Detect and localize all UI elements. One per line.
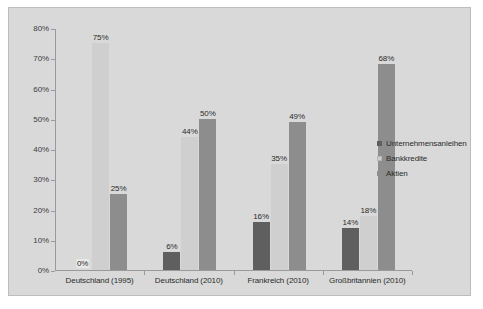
x-axis-category-label: Deutschland (1995) xyxy=(55,276,144,286)
bar-value-label: 35% xyxy=(271,154,287,163)
x-axis: Deutschland (1995)Deutschland (2010)Fran… xyxy=(55,274,412,294)
bar-value-label: 75% xyxy=(93,33,109,42)
x-axis-category-label: Großbritannien (2010) xyxy=(323,276,412,286)
bar-group: 6%44%50% xyxy=(145,29,234,270)
chart-frame: 0%10%20%30%40%50%60%70%80% 0%75%25%6%44%… xyxy=(8,7,471,296)
bar-value-label: 0% xyxy=(76,259,89,268)
y-axis-tick-label: 20% xyxy=(9,206,49,216)
x-axis-tick-mark xyxy=(412,271,413,275)
y-axis-tick-label: 10% xyxy=(9,236,49,246)
legend-item-label: Aktien xyxy=(386,169,408,178)
y-axis-tick-mark xyxy=(51,29,55,30)
y-axis-tick-mark xyxy=(51,90,55,91)
legend-swatch-icon xyxy=(377,141,382,146)
y-axis-tick-label: 30% xyxy=(9,175,49,185)
x-axis-tick-mark xyxy=(234,271,235,275)
bar[interactable]: 50% xyxy=(199,119,216,270)
bar-value-label: 18% xyxy=(361,206,377,215)
y-axis: 0%10%20%30%40%50%60%70%80% xyxy=(9,22,55,272)
bar[interactable]: 75% xyxy=(92,43,109,270)
bar[interactable]: 35% xyxy=(271,164,288,270)
bar-value-label: 25% xyxy=(111,184,127,193)
y-axis-tick-mark xyxy=(51,180,55,181)
bar-value-label: 44% xyxy=(182,127,198,136)
bar-group: 16%35%49% xyxy=(235,29,324,270)
bar-value-label: 6% xyxy=(166,242,177,251)
chart-legend: Unternehmensanleihen Bankkredite Aktien xyxy=(377,136,481,181)
bar-group: 0%75%25% xyxy=(56,29,145,270)
y-axis-tick-mark xyxy=(51,211,55,212)
x-axis-category-label: Deutschland (2010) xyxy=(144,276,233,286)
y-axis-tick-mark xyxy=(51,241,55,242)
bar[interactable]: 6% xyxy=(163,252,180,270)
y-axis-tick-label: 40% xyxy=(9,145,49,155)
legend-item-unternehmensanleihen[interactable]: Unternehmensanleihen xyxy=(377,136,481,151)
legend-item-label: Unternehmensanleihen xyxy=(386,139,467,148)
bar-value-label: 68% xyxy=(379,54,395,63)
x-axis-tick-mark xyxy=(144,271,145,275)
y-axis-tick-mark xyxy=(51,120,55,121)
bar-value-label: 50% xyxy=(200,109,216,118)
legend-item-label: Bankkredite xyxy=(386,154,427,163)
bar[interactable]: 16% xyxy=(253,222,270,270)
legend-swatch-icon xyxy=(377,171,382,176)
bar-value-label: 16% xyxy=(253,212,269,221)
legend-item-aktien[interactable]: Aktien xyxy=(377,166,481,181)
x-axis-category-label: Frankreich (2010) xyxy=(234,276,323,286)
bar-value-label: 14% xyxy=(343,218,359,227)
bar[interactable]: 44% xyxy=(181,137,198,270)
bar[interactable]: 25% xyxy=(110,194,127,270)
y-axis-tick-label: 80% xyxy=(9,24,49,34)
y-axis-tick-label: 60% xyxy=(9,85,49,95)
y-axis-tick-label: 50% xyxy=(9,115,49,125)
bar[interactable]: 14% xyxy=(342,228,359,270)
bar[interactable]: 18% xyxy=(360,216,377,270)
y-axis-tick-mark xyxy=(51,271,55,272)
y-axis-tick-mark xyxy=(51,150,55,151)
plot-area: 0%75%25%6%44%50%16%35%49%14%18%68% xyxy=(55,29,412,271)
y-axis-tick-mark xyxy=(51,59,55,60)
bar[interactable]: 49% xyxy=(289,122,306,270)
chart-screenshot: 0%10%20%30%40%50%60%70%80% 0%75%25%6%44%… xyxy=(0,0,483,309)
x-axis-tick-mark xyxy=(323,271,324,275)
y-axis-tick-label: 0% xyxy=(9,266,49,276)
y-axis-tick-label: 70% xyxy=(9,54,49,64)
legend-item-bankkredite[interactable]: Bankkredite xyxy=(377,151,481,166)
bar-value-label: 49% xyxy=(289,112,305,121)
legend-swatch-icon xyxy=(377,156,382,161)
